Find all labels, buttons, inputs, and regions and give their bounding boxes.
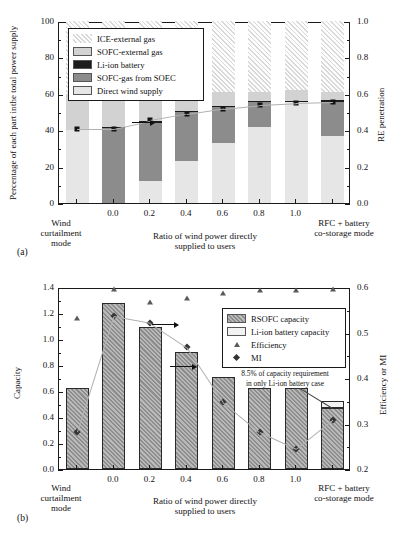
- x-tick-mark: [149, 199, 150, 204]
- legend-item-1: SOFC-external gas: [73, 45, 198, 58]
- y-right-tick-mark: [345, 288, 350, 289]
- y-minor-tick: [58, 186, 61, 187]
- x-tick-mark: [222, 465, 223, 470]
- x-tick-label: 0.8: [247, 474, 271, 484]
- bar-segment-4: [285, 21, 308, 90]
- y-tick-label: 0.0: [32, 464, 54, 474]
- bar-segment-1: [102, 128, 125, 203]
- y-minor-tick: [58, 379, 61, 380]
- y-tick-label: 1.0: [32, 334, 54, 344]
- panel-a-x-axis-label: Ratio of wind power directlysupplied to …: [120, 231, 290, 251]
- y-right-tick-label: 0.2: [357, 464, 368, 474]
- bar-segment-1: [212, 107, 235, 143]
- panel-b-left-group-label: Windcurtailmentmode: [22, 483, 100, 513]
- y-right-tick-mark: [345, 425, 350, 426]
- y-right-minor-tick: [347, 113, 350, 114]
- x-tick-label: 0.2: [137, 208, 161, 218]
- efficiency-marker: [147, 299, 153, 304]
- efficiency-marker: [220, 290, 226, 295]
- y-right-tick-label: 1.0: [357, 16, 368, 26]
- x-tick-label: 0.8: [247, 208, 271, 218]
- panel-b-tag: (b): [17, 513, 28, 523]
- bar-column: [285, 21, 308, 203]
- legend-label: Li-ion battery: [97, 60, 145, 70]
- panel-a-legend: ICE-external gasSOFC-external gasLi-ion …: [68, 28, 204, 101]
- x-tick-mark: [332, 465, 333, 470]
- y-tick-mark: [58, 444, 63, 445]
- bar-segment-0: [139, 327, 162, 469]
- y-minor-tick: [58, 457, 61, 458]
- bar-column: [139, 287, 162, 469]
- y-right-tick-label: 0.8: [357, 52, 368, 62]
- y-tick-label: 0.6: [32, 386, 54, 396]
- y-right-minor-tick: [347, 356, 350, 357]
- x-tick-mark: [186, 465, 187, 470]
- legend-swatch-1: [227, 327, 246, 336]
- bar-segment-4: [248, 21, 271, 92]
- bar-column: [175, 287, 198, 469]
- bar-segment-0: [248, 127, 271, 203]
- y-right-minor-tick: [347, 311, 350, 312]
- y-minor-tick: [58, 327, 61, 328]
- x-tick-mark: [149, 465, 150, 470]
- y-tick-mark: [58, 168, 63, 169]
- bar-segment-0: [212, 143, 235, 203]
- triangle-marker-icon: [227, 342, 246, 347]
- efficiency-marker: [257, 288, 263, 293]
- x-tick-label: 0.6: [210, 474, 234, 484]
- y-tick-label: 0.4: [32, 412, 54, 422]
- y-tick-label: 20: [32, 162, 54, 172]
- bar-segment-0: [102, 303, 125, 469]
- y-tick-mark: [58, 470, 63, 471]
- y-tick-mark: [58, 288, 63, 289]
- figure-two-panel-chart: Percentage of each part inthe total powe…: [0, 0, 397, 535]
- bar-segment-1: [321, 102, 344, 136]
- x-tick-label: 0.0: [101, 208, 125, 218]
- legend-item-4: Direct wind supply: [73, 84, 198, 97]
- x-tick-mark: [332, 199, 333, 204]
- legend-label: MI: [251, 353, 262, 363]
- y-right-tick-mark: [345, 470, 350, 471]
- bar-segment-1: [139, 123, 162, 181]
- trend-line-segment: [77, 129, 114, 130]
- panel-b-right-y-axis-label: Efficiency or MI: [378, 330, 392, 440]
- y-minor-tick: [58, 40, 61, 41]
- diamond-marker-icon: [227, 355, 246, 360]
- y-tick-label: 0.8: [32, 360, 54, 370]
- x-tick-mark: [295, 199, 296, 204]
- bar-segment-0: [285, 101, 308, 203]
- y-tick-mark: [58, 204, 63, 205]
- annotation-arrow: [132, 122, 154, 123]
- panel-a-tag: (a): [17, 247, 28, 257]
- legend-swatch-4: [73, 86, 92, 95]
- annotation-arrow: [170, 366, 196, 367]
- bar-segment-3: [248, 92, 271, 101]
- y-right-minor-tick: [347, 40, 350, 41]
- efficiency-marker: [330, 287, 336, 292]
- legend-label: Direct wind supply: [97, 86, 163, 96]
- panel-b: Capacity Efficiency or MI (b) Ratio of w…: [0, 268, 397, 535]
- panel-a: Percentage of each part inthe total powe…: [0, 0, 397, 268]
- legend-swatch-2: [73, 60, 92, 69]
- bar-segment-3: [321, 92, 344, 100]
- legend-swatch-0: [73, 34, 92, 43]
- bar-segment-4: [212, 21, 235, 92]
- y-minor-tick: [58, 77, 61, 78]
- legend-label: SOFC-external gas: [97, 47, 163, 57]
- legend-swatch-3: [73, 73, 92, 82]
- y-minor-tick: [58, 405, 61, 406]
- y-right-minor-tick: [347, 447, 350, 448]
- y-right-tick-label: 0.6: [357, 282, 368, 292]
- y-right-tick-mark: [345, 58, 350, 59]
- x-tick-mark: [76, 199, 77, 204]
- panel-a-left-group-label: Windcurtailmentmode: [22, 218, 100, 248]
- efficiency-marker: [74, 315, 80, 320]
- y-minor-tick: [58, 301, 61, 302]
- legend-swatch-0: [227, 314, 246, 323]
- y-minor-tick: [58, 113, 61, 114]
- panel-b-annotation: 8.5% of capacity requirementin only Li-i…: [218, 369, 352, 388]
- y-minor-tick: [58, 149, 61, 150]
- legend-label: SOFC-gas from SOEC: [97, 73, 176, 83]
- y-tick-label: 60: [32, 89, 54, 99]
- panel-b-y-axis-label: Capacity: [12, 343, 26, 423]
